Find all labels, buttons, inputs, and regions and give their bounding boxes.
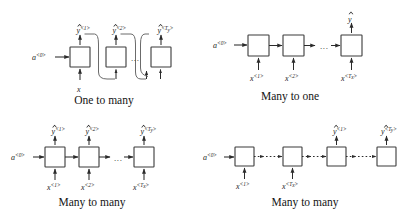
panel2-x3-label: x<Tx>: [340, 73, 358, 83]
panel4-cell-3: [327, 147, 346, 166]
panel-many-to-many-synced: a<0> ... x<1> x<2> x<Tx>: [11, 125, 157, 209]
panel2-cell-3: [341, 35, 362, 56]
panel1-feedback-loop-3: [141, 34, 149, 77]
panel4-cell-1: [235, 147, 254, 166]
panel4-x1-label: x<1>: [235, 181, 250, 191]
panel2-cell-2: [283, 35, 304, 56]
panel2-x1-label: x<1>: [249, 73, 264, 83]
panel3-a0-label: a<0>: [11, 152, 25, 162]
panel3-yhat1-label: y<1>: [51, 126, 66, 136]
panel-one-to-many: a<0> x y<1> y<2>: [32, 24, 174, 107]
panel4-x2-label: x<Tx>: [281, 181, 299, 191]
panel1-ellipsis: ...: [131, 53, 140, 63]
panel3-yhat2-label: y<2>: [85, 126, 100, 136]
panel3-x3-label: x<Tx>: [132, 182, 150, 192]
panel2-cell-1: [248, 35, 269, 56]
panel3-x1-label: x<1>: [46, 182, 61, 192]
panel3-x2-label: x<2>: [80, 182, 95, 192]
panel3-cell-2: [79, 147, 99, 167]
panel-many-to-many-encoder-decoder: a<0> x<1> x<Tx>: [203, 125, 397, 209]
panel4-caption: Many to many: [271, 196, 338, 209]
panel1-caption: One to many: [74, 94, 134, 107]
panel4-cell-2: [283, 147, 302, 166]
panel1-cell-2: [106, 47, 126, 67]
panel3-cell-1: [45, 147, 65, 167]
panel4-a0-label: a<0>: [203, 152, 217, 162]
panel2-yhat-label: y: [347, 15, 352, 24]
panel1-a0-label: a<0>: [32, 52, 46, 62]
panel1-cell-1: [70, 47, 90, 67]
rnn-diagram-canvas: a<0> x y<1> y<2>: [0, 0, 405, 221]
panel4-yhat1-label: y<1>: [332, 126, 347, 136]
panel2-a0-label: a<0>: [213, 40, 227, 50]
rnn-architectures-figure: a<0> x y<1> y<2>: [0, 0, 405, 221]
panel1-cell-3: [151, 47, 171, 67]
panel3-yhat3-label: y<Ty>: [140, 126, 157, 136]
panel2-caption: Many to one: [261, 90, 319, 103]
panel1-x-label: x: [76, 85, 81, 94]
panel2-x2-label: x<2>: [284, 73, 299, 83]
panel3-ellipsis: ...: [114, 153, 123, 163]
panel3-cell-3: [134, 147, 154, 167]
panel3-caption: Many to many: [58, 196, 125, 209]
panel-many-to-one: a<0> ... x<1> x<2> x<Tx>: [213, 11, 362, 103]
panel1-yhat3-label: y<Ty>: [157, 25, 174, 35]
panel4-cell-4: [377, 147, 396, 166]
panel2-ellipsis: ...: [320, 41, 329, 51]
panel4-yhat2-label: y<Ty>: [380, 126, 397, 136]
